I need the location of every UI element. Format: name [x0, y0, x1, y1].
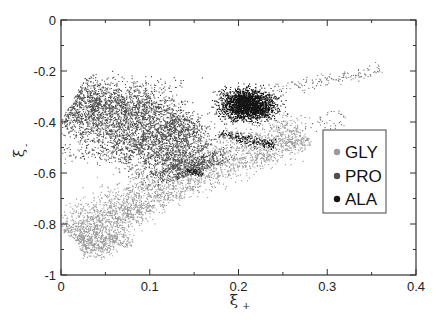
x-tick-label: 0.3: [318, 279, 336, 294]
legend-marker-ala: [334, 196, 340, 202]
y-tick-label: -0.4: [34, 115, 56, 130]
y-tick-label: -0.6: [34, 166, 56, 181]
x-tick-labels: 00.10.20.30.4: [57, 279, 425, 294]
x-axis-title: ξ +: [230, 291, 251, 311]
legend-marker-pro: [334, 173, 340, 179]
points-pro: [61, 71, 237, 189]
svg-text:PRO: PRO: [345, 167, 382, 186]
svg-text:ξ: ξ: [230, 291, 238, 309]
scatter-chart: 00.10.20.30.4 0-0.2-0.4-0.6-0.8-1 ξ + ξ …: [0, 0, 438, 327]
x-tick-label: 0.1: [141, 279, 159, 294]
svg-text:ALA: ALA: [345, 190, 378, 209]
y-tick-label: -0.8: [34, 217, 56, 232]
y-tick-label: -0.2: [34, 64, 56, 79]
legend-marker-gly: [334, 149, 340, 155]
y-axis-title: ξ -: [10, 144, 31, 158]
svg-text:ξ: ξ: [10, 149, 28, 157]
points-gly: [61, 109, 311, 260]
y-tick-labels: 0-0.2-0.4-0.6-0.8-1: [34, 13, 56, 283]
svg-text:+: +: [242, 300, 250, 311]
legend: GLY PRO ALA: [323, 130, 386, 213]
y-tick-label: -1: [44, 268, 56, 283]
svg-text:GLY: GLY: [345, 143, 378, 162]
x-tick-label: 0.4: [407, 279, 425, 294]
x-tick-label: 0: [57, 279, 64, 294]
y-tick-label: 0: [49, 13, 56, 28]
svg-text:-: -: [20, 144, 31, 147]
